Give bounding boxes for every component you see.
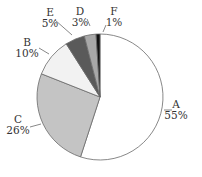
slice-percent-d: 3% (72, 16, 89, 28)
slice-percent-e: 5% (42, 17, 59, 29)
slice-percent-f: 1% (106, 16, 123, 28)
slice-percent-a: 55% (164, 109, 187, 121)
leader-line-b (39, 48, 49, 54)
slice-percent-b: 10% (15, 47, 38, 59)
leader-line-c (30, 124, 41, 127)
slice-percent-c: 26% (6, 124, 29, 136)
pie-chart: A55%C26%B10%E5%D3%F1% (0, 0, 202, 177)
pie-slices (37, 34, 163, 160)
